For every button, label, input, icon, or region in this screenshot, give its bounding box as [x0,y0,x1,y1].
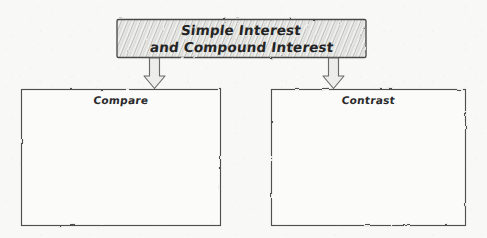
title-box: Simple Interest and Compound Interest [117,20,366,57]
title-line-1: Simple Interest [180,22,302,38]
compare-box-content-area[interactable] [22,108,220,224]
contrast-box-label: Contrast [270,94,466,106]
arrow-to-compare-shape [144,58,165,89]
graphic-organizer-canvas: Simple Interest and Compound Interest Co… [0,0,487,238]
compare-box-label: Compare [20,94,221,106]
title-line-2: and Compound Interest [149,39,335,55]
arrow-to-contrast-shape [323,58,344,89]
contrast-box-content-area[interactable] [272,108,465,224]
